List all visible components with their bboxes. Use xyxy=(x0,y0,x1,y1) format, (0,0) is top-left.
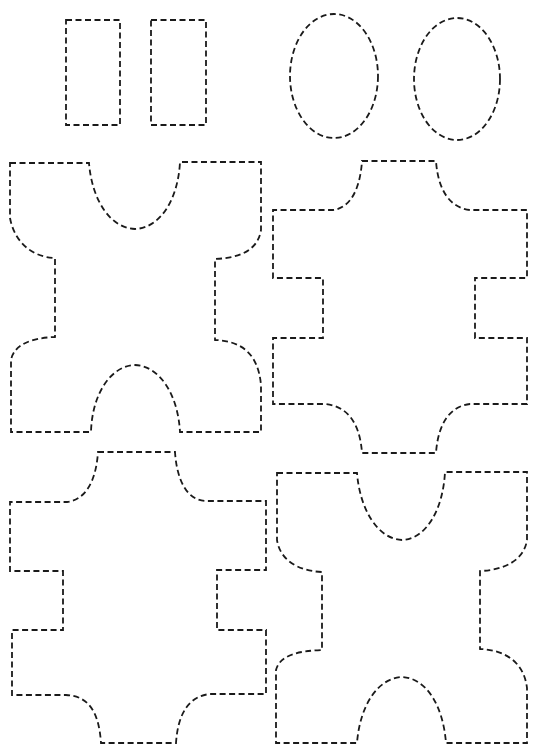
puzzle-piece-top-left xyxy=(10,162,261,432)
dashed-rectangle-2 xyxy=(151,20,206,125)
dashed-rectangle-1 xyxy=(66,20,120,125)
cutout-worksheet xyxy=(0,0,539,755)
puzzle-piece-bottom-right xyxy=(276,472,527,743)
puzzle-piece-top-right xyxy=(273,161,527,453)
dashed-oval-2 xyxy=(414,18,500,140)
dashed-oval-1 xyxy=(290,14,378,138)
puzzle-piece-bottom-left xyxy=(10,452,266,743)
